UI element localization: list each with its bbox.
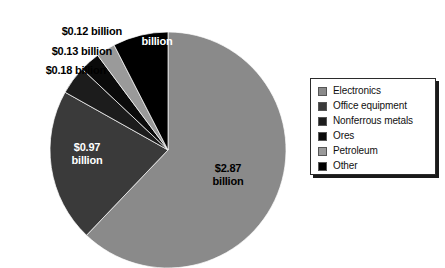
legend-item-ores[interactable]: Ores [318,129,429,143]
legend-item-label: Office equipment [333,101,407,111]
legend-item-office-equipment[interactable]: Office equipment [318,99,429,113]
legend-item-label: Petroleum [333,146,378,156]
pie-chart-figure: $2.87 billion $0.97 billion $0.35 billio… [0,0,445,268]
legend-swatch-icon [318,117,327,126]
legend-item-label: Other [333,161,358,171]
slice-label-ores: $0.13 billion [2,45,112,57]
legend-item-petroleum[interactable]: Petroleum [318,144,429,158]
slice-label-office-equipment: $0.97 billion [56,141,118,166]
legend-swatch-icon [318,147,327,156]
slice-label-electronics: $2.87 billion [196,162,260,187]
slice-label-nonferrous-metals: $0.18 billion [0,64,106,76]
chart-legend: ElectronicsOffice equipmentNonferrous me… [310,78,436,175]
slice-label-other: $0.35 billion [131,22,183,47]
legend-swatch-icon [318,132,327,141]
legend-item-nonferrous-metals[interactable]: Nonferrous metals [318,114,429,128]
legend-item-label: Nonferrous metals [333,116,413,126]
legend-swatch-icon [318,102,327,111]
slice-label-petroleum: $0.12 billion [12,25,122,37]
legend-swatch-icon [318,162,327,171]
legend-item-other[interactable]: Other [318,159,429,173]
legend-item-electronics[interactable]: Electronics [318,84,429,98]
legend-item-label: Electronics [333,86,381,96]
legend-item-label: Ores [333,131,354,141]
legend-swatch-icon [318,87,327,96]
